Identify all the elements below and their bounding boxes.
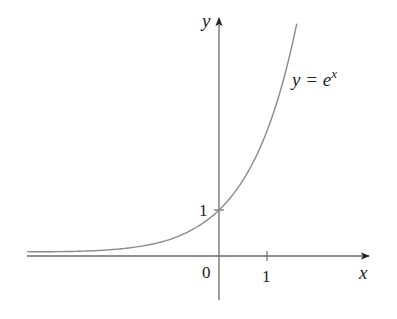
curve-label: y = ex	[290, 66, 337, 90]
x-axis-label: x	[358, 262, 368, 283]
exp-curve	[27, 24, 297, 252]
x-tick-label-1: 1	[262, 267, 271, 286]
origin-label: 0	[202, 263, 211, 282]
exponential-plot: y x 0 1 1 y = ex	[0, 0, 397, 319]
y-tick-label-1: 1	[199, 201, 208, 220]
curve-label-sup: x	[330, 66, 337, 81]
curve-label-main: y = e	[290, 69, 331, 90]
y-axis-label: y	[200, 10, 211, 31]
